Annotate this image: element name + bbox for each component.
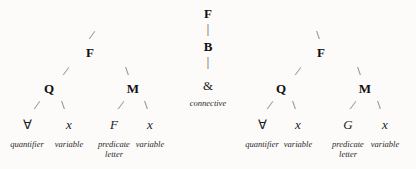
right-gloss-predicate-line2: letter — [339, 149, 357, 159]
right-terminal-variable-1: x — [295, 118, 301, 131]
edge-left-m-to-predicate — [120, 99, 122, 111]
edge-left-q-to-variable — [61, 99, 64, 111]
connective-node-b: B — [204, 40, 213, 53]
left-gloss-predicate-line1: predicate — [98, 139, 130, 149]
edge-left-m-to-variable — [144, 99, 147, 111]
edge-right-m-to-predicate — [352, 99, 354, 111]
left-terminal-variable-1: x — [66, 118, 72, 131]
left-subtree-root-f: F — [86, 46, 94, 59]
right-node-m: M — [359, 82, 371, 95]
edge-right-f-to-q — [297, 65, 299, 77]
left-gloss-variable-2: variable — [136, 139, 164, 149]
edge-right-m-to-variable — [377, 99, 380, 111]
edge-left-f-to-q — [65, 65, 67, 77]
edge-right-f-to-m — [357, 65, 360, 77]
left-terminal-variable-2: x — [147, 118, 153, 131]
left-gloss-quantifier: quantifier — [10, 139, 44, 149]
parse-tree-diagram: F B & connective F Q M ∀ x quantifier va… — [0, 0, 416, 169]
right-gloss-variable-1: variable — [284, 139, 312, 149]
right-gloss-predicate-line1: predicate — [332, 139, 364, 149]
terminal-ampersand: & — [203, 79, 213, 92]
edge-root-to-b — [207, 23, 209, 35]
right-terminal-quantifier: ∀ — [258, 118, 267, 131]
edge-left-f-to-m — [125, 65, 128, 77]
left-node-q: Q — [44, 82, 54, 95]
edge-right-q-to-quantifier — [269, 99, 271, 111]
edge-root-to-left-f — [91, 29, 93, 41]
root-node-f: F — [204, 7, 212, 20]
right-terminal-variable-2: x — [382, 118, 388, 131]
right-subtree-root-f: F — [317, 46, 325, 59]
left-terminal-quantifier: ∀ — [23, 118, 32, 131]
right-gloss-quantifier: quantifier — [245, 139, 279, 149]
right-terminal-predicate-letter: G — [343, 118, 352, 131]
left-node-m: M — [127, 82, 139, 95]
edge-left-q-to-quantifier — [36, 99, 38, 111]
edge-root-to-right-f — [316, 29, 319, 41]
left-terminal-predicate-letter: F — [110, 118, 118, 131]
left-gloss-predicate-line2: letter — [105, 149, 123, 159]
right-gloss-variable-2: variable — [371, 139, 399, 149]
edge-b-to-ampersand — [207, 56, 209, 68]
gloss-connective: connective — [190, 98, 226, 108]
left-gloss-variable-1: variable — [55, 139, 83, 149]
edge-right-q-to-variable — [292, 99, 295, 111]
right-node-q: Q — [276, 82, 286, 95]
